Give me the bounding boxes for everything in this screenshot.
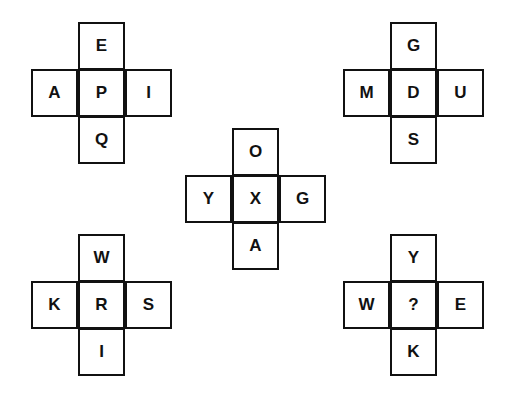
cross-bottom-left: W K R S I [31, 234, 172, 375]
cell-right: E [437, 281, 484, 329]
cell-left: M [343, 69, 390, 117]
cell-bottom: A [232, 222, 279, 270]
cross-bottom-right: Y W ? E K [343, 234, 484, 375]
cell-right: U [437, 69, 484, 117]
cross-center: O Y X G A [185, 128, 326, 269]
cell-center-unknown: ? [390, 281, 437, 329]
cell-bottom: I [78, 328, 125, 376]
cell-right: G [279, 175, 326, 223]
cell-top: O [232, 128, 279, 176]
cell-center: P [78, 69, 125, 117]
cell-bottom: S [390, 116, 437, 164]
cell-top: E [78, 22, 125, 70]
cell-left: K [31, 281, 78, 329]
cell-bottom: K [390, 328, 437, 376]
cell-top: G [390, 22, 437, 70]
cross-top-right: G M D U S [343, 22, 484, 163]
cell-top: W [78, 234, 125, 282]
cross-top-left: E A P I Q [31, 22, 172, 163]
cell-right: S [125, 281, 172, 329]
cell-left: Y [185, 175, 232, 223]
cell-center: R [78, 281, 125, 329]
cell-center: X [232, 175, 279, 223]
cell-top: Y [390, 234, 437, 282]
cell-center: D [390, 69, 437, 117]
cell-bottom: Q [78, 116, 125, 164]
cell-right: I [125, 69, 172, 117]
cell-left: A [31, 69, 78, 117]
cell-left: W [343, 281, 390, 329]
